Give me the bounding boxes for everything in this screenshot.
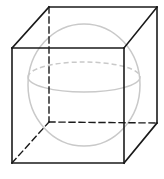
geometry-figure [0, 0, 164, 179]
back-bottom-edge [49, 122, 157, 123]
sphere-in-cube-diagram [0, 0, 164, 179]
